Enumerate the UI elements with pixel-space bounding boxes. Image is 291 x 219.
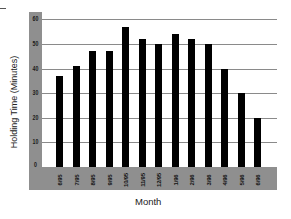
- bar: [122, 27, 129, 167]
- x-tick-label: 2/96: [188, 170, 196, 190]
- x-axis-title: Month: [135, 196, 161, 207]
- corner-mark: [0, 8, 6, 9]
- x-tick-label: 10/95: [122, 170, 130, 190]
- bar: [73, 66, 80, 167]
- y-tick-label: 40: [31, 65, 41, 73]
- x-tick-label: 8/95: [89, 170, 97, 190]
- x-tick-label: 3/96: [205, 170, 213, 190]
- bar: [254, 118, 261, 167]
- x-tick-label: 6/96: [254, 170, 262, 190]
- x-tick-label: 5/96: [238, 170, 246, 190]
- bar: [89, 51, 96, 167]
- y-axis-title: Holding Time (Minutes): [9, 56, 19, 149]
- x-tick-label: 6/95: [56, 170, 64, 190]
- bar: [172, 34, 179, 167]
- x-tick-label: 12/95: [155, 170, 163, 190]
- x-tick-label: 7/95: [73, 170, 81, 190]
- bar: [106, 51, 113, 167]
- bar: [139, 39, 146, 167]
- bar: [188, 39, 195, 167]
- y-tick-label: 0: [31, 161, 41, 169]
- bar: [155, 44, 162, 167]
- bar: [205, 44, 212, 167]
- gridline: [42, 19, 277, 20]
- x-tick-label: 1/96: [172, 170, 180, 190]
- bar: [56, 76, 63, 167]
- y-tick-label: 20: [31, 114, 41, 122]
- y-tick-label: 10: [31, 138, 41, 146]
- x-tick-label: 11/95: [139, 170, 147, 190]
- y-tick-label: 50: [31, 40, 41, 48]
- y-tick-label: 30: [31, 89, 41, 97]
- x-tick-label: 9/95: [106, 170, 114, 190]
- x-tick-label: 4/96: [221, 170, 229, 190]
- bar: [221, 69, 228, 167]
- y-tick-label: 60: [31, 15, 41, 23]
- bar: [238, 93, 245, 167]
